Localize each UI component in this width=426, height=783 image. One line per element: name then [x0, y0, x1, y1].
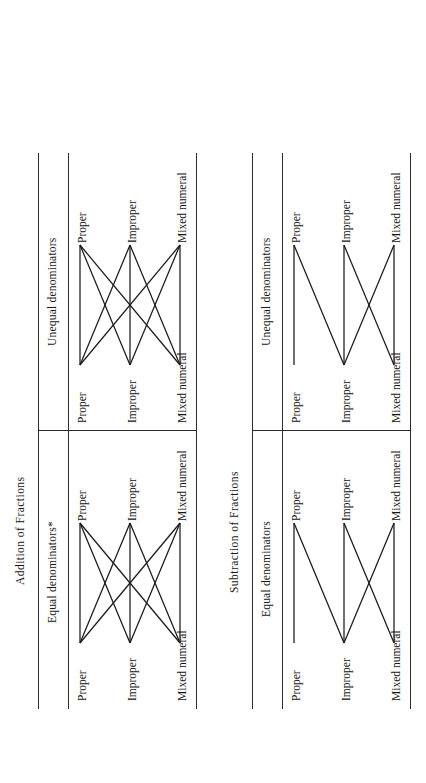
subtraction-unequal-denominators-edges — [286, 245, 404, 365]
addition-unequal-denominators-header: Unequal denominators — [46, 238, 58, 346]
subtraction-unequal-left-node-proper: Proper — [290, 392, 302, 423]
figure-page: Addition of Fractions Equal denominators… — [0, 0, 426, 783]
subtraction-equal-left-node-proper: Proper — [290, 670, 302, 701]
subtraction-equal-denominators-edges — [286, 523, 404, 643]
addition-section-divider — [38, 430, 196, 431]
subtraction-equal-left-node-improper: Improper — [340, 658, 352, 701]
addition-unequal-left-node-improper: Improper — [126, 380, 138, 423]
diagram-title-subtraction: Subtraction of Fractions — [228, 471, 240, 593]
addition-header-rule — [68, 153, 69, 709]
connection-line — [294, 523, 344, 643]
addition-equal-left-node-proper: Proper — [76, 670, 88, 701]
subtraction-unequal-right-node-proper: Proper — [290, 212, 302, 243]
addition-equal-left-node-improper: Improper — [126, 658, 138, 701]
addition-bottom-rule — [196, 153, 197, 709]
addition-unequal-left-node-proper: Proper — [76, 392, 88, 423]
addition-equal-denominators-edges — [72, 523, 190, 643]
addition-unequal-right-node-mixed-numeral: Mixed numeral — [176, 172, 188, 243]
connection-line — [294, 245, 344, 365]
subtraction-unequal-left-node-improper: Improper — [340, 380, 352, 423]
addition-unequal-right-node-improper: Improper — [126, 200, 138, 243]
subtraction-equal-right-node-improper: Improper — [340, 478, 352, 521]
addition-equal-right-node-proper: Proper — [76, 490, 88, 521]
subtraction-section-divider — [252, 430, 410, 431]
addition-unequal-right-node-proper: Proper — [76, 212, 88, 243]
subtraction-top-rule — [252, 153, 253, 709]
subtraction-unequal-right-node-improper: Improper — [340, 200, 352, 243]
subtraction-equal-denominators-header: Equal denominators — [260, 521, 272, 617]
subtraction-equal-right-node-mixed-numeral: Mixed numeral — [390, 450, 402, 521]
addition-equal-right-node-improper: Improper — [126, 478, 138, 521]
subtraction-equal-right-node-proper: Proper — [290, 490, 302, 521]
subtraction-unequal-denominators-header: Unequal denominators — [260, 238, 272, 346]
addition-equal-denominators-header: Equal denominators* — [46, 521, 58, 623]
addition-top-rule — [38, 153, 39, 709]
rotated-page-wrapper: Addition of Fractions Equal denominators… — [0, 0, 426, 783]
addition-equal-right-node-mixed-numeral: Mixed numeral — [176, 450, 188, 521]
diagram-title-addition: Addition of Fractions — [14, 477, 26, 585]
subtraction-bottom-rule — [410, 153, 411, 709]
subtraction-unequal-right-node-mixed-numeral: Mixed numeral — [390, 172, 402, 243]
addition-unequal-denominators-edges — [72, 245, 190, 365]
subtraction-header-rule — [282, 153, 283, 709]
